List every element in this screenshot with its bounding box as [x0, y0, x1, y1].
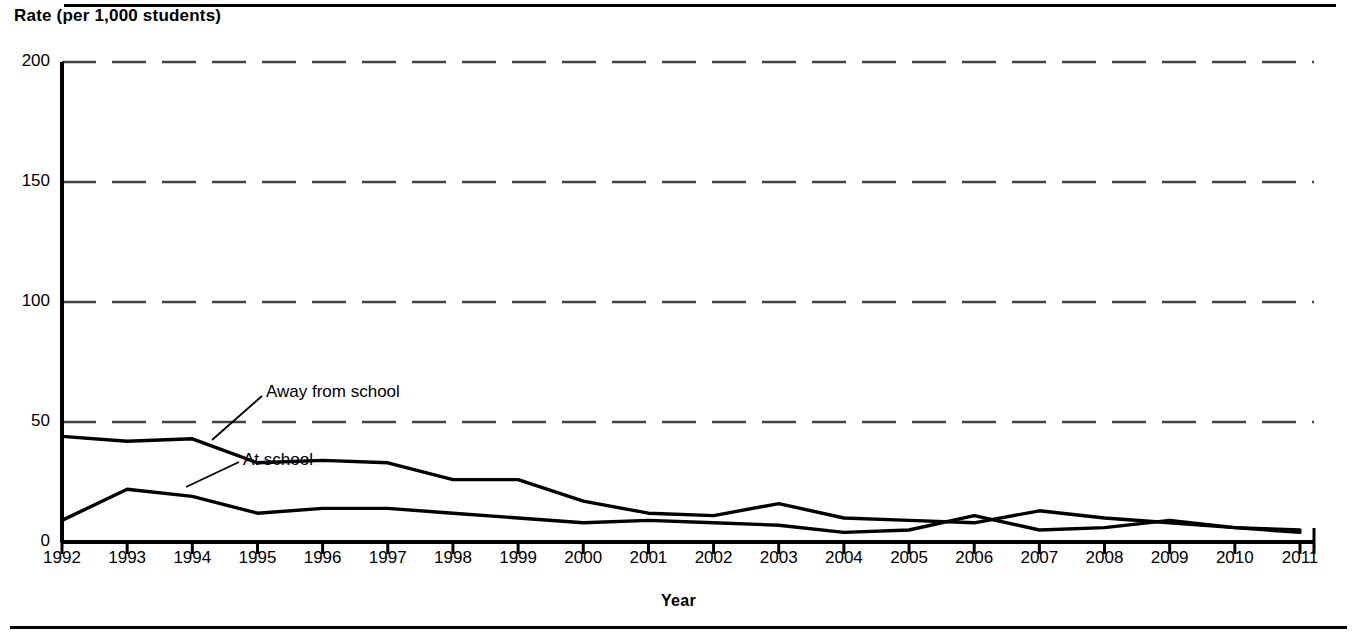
x-tick-label-2009: 2009 — [1138, 548, 1202, 568]
x-tick-label-1996: 1996 — [291, 548, 355, 568]
bottom-divider-rule — [10, 626, 1347, 629]
x-tick-label-1998: 1998 — [421, 548, 485, 568]
leader-line-at-school — [186, 462, 239, 487]
series-line-at-school — [62, 489, 1300, 532]
chart-figure: Rate (per 1,000 students) 050100150200 1… — [0, 0, 1357, 642]
x-tick-label-1999: 1999 — [486, 548, 550, 568]
x-tick-label-2002: 2002 — [682, 548, 746, 568]
x-tick-label-2011: 2011 — [1268, 548, 1332, 568]
series-annotation-away-from-school: Away from school — [266, 382, 400, 402]
x-tick-label-2003: 2003 — [747, 548, 811, 568]
x-tick-label-2001: 2001 — [616, 548, 680, 568]
y-tick-label-150: 150 — [2, 171, 50, 191]
x-tick-label-2006: 2006 — [942, 548, 1006, 568]
y-tick-label-200: 200 — [2, 51, 50, 71]
x-tick-label-2010: 2010 — [1203, 548, 1267, 568]
x-tick-label-2008: 2008 — [1073, 548, 1137, 568]
x-tick-label-1995: 1995 — [225, 548, 289, 568]
x-tick-label-1997: 1997 — [356, 548, 420, 568]
series-annotation-at-school: At school — [243, 450, 313, 470]
x-tick-label-2004: 2004 — [812, 548, 876, 568]
x-tick-label-2007: 2007 — [1007, 548, 1071, 568]
x-tick-label-1994: 1994 — [160, 548, 224, 568]
x-tick-label-2005: 2005 — [877, 548, 941, 568]
x-tick-label-1993: 1993 — [95, 548, 159, 568]
x-tick-label-2000: 2000 — [551, 548, 615, 568]
x-axis-title: Year — [0, 592, 1357, 610]
x-tick-label-1992: 1992 — [30, 548, 94, 568]
plot-area — [0, 0, 1357, 642]
y-tick-label-50: 50 — [2, 411, 50, 431]
y-tick-label-100: 100 — [2, 291, 50, 311]
leader-line-away-from-school — [212, 396, 262, 440]
